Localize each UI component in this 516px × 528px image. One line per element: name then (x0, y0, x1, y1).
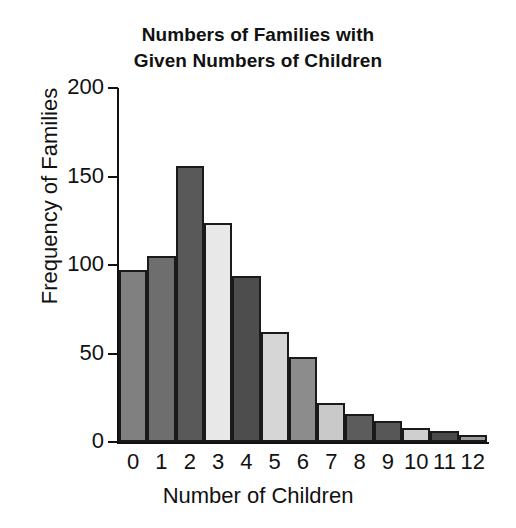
bar (147, 256, 175, 442)
y-tick-mark (108, 87, 118, 89)
x-tick-label: 6 (289, 450, 317, 474)
bar (345, 414, 373, 442)
x-tick-label: 10 (402, 450, 430, 474)
x-tick-label: 0 (119, 450, 147, 474)
bar (402, 428, 430, 442)
y-tick-label-wrap: 0 (0, 430, 104, 452)
bar-series (119, 88, 487, 442)
bar (119, 270, 147, 442)
bar (317, 403, 345, 442)
bar (459, 435, 487, 442)
x-tick-label: 11 (430, 450, 458, 474)
chart-title: Numbers of Families with Given Numbers o… (0, 22, 516, 74)
y-axis-title: Frequency of Families (39, 26, 61, 366)
bar (232, 276, 260, 442)
chart-title-line-2: Given Numbers of Children (0, 48, 516, 74)
x-tick-label: 3 (204, 450, 232, 474)
bar (374, 421, 402, 442)
y-tick-mark (108, 441, 118, 443)
y-tick-mark (108, 176, 118, 178)
x-tick-label: 7 (317, 450, 345, 474)
y-tick-label: 0 (16, 430, 104, 452)
x-tick-label: 8 (345, 450, 373, 474)
bar (430, 431, 458, 442)
x-axis-title: Number of Children (0, 484, 516, 508)
x-tick-label: 1 (147, 450, 175, 474)
chart-title-line-1: Numbers of Families with (0, 22, 516, 48)
x-tick-label: 9 (374, 450, 402, 474)
y-tick-mark (108, 264, 118, 266)
bar (204, 223, 232, 442)
y-tick-mark (108, 353, 118, 355)
chart-figure: Numbers of Families with Given Numbers o… (0, 0, 516, 528)
bar (289, 357, 317, 442)
x-tick-label: 2 (176, 450, 204, 474)
x-tick-label: 12 (459, 450, 487, 474)
x-axis-line (117, 442, 489, 444)
bar (261, 332, 289, 442)
bar (176, 166, 204, 442)
x-tick-label: 5 (261, 450, 289, 474)
x-tick-label: 4 (232, 450, 260, 474)
